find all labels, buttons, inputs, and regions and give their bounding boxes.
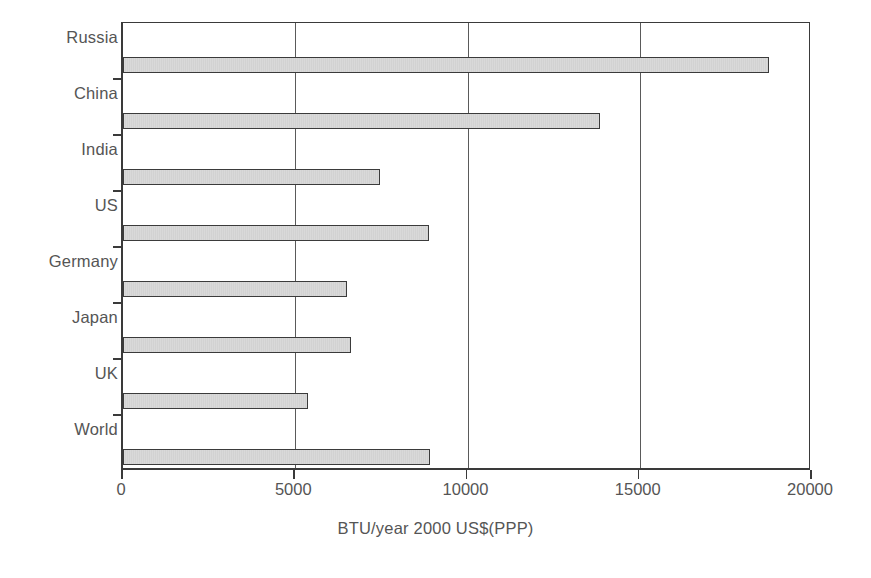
bar-band-russia <box>123 23 809 79</box>
bar-band-us <box>123 191 809 247</box>
bar-world[interactable] <box>123 449 430 465</box>
x-axis-label-0: 0 <box>116 480 125 499</box>
plot-area <box>121 22 810 470</box>
x-tick-5000 <box>293 470 295 479</box>
x-tick-20000 <box>810 470 812 479</box>
bar-band-germany <box>123 247 809 303</box>
bar-uk[interactable] <box>123 393 308 409</box>
x-axis-title: BTU/year 2000 US$(PPP) <box>0 519 871 538</box>
bar-band-uk <box>123 359 809 415</box>
x-tick-0 <box>121 470 123 479</box>
bar-russia[interactable] <box>123 57 769 73</box>
bar-band-china <box>123 79 809 135</box>
x-tick-10000 <box>466 470 468 479</box>
bar-band-japan <box>123 303 809 359</box>
x-axis-label-3: 15000 <box>615 480 661 499</box>
bar-chart: Russia China India US Germany Japan UK W… <box>0 0 871 578</box>
x-axis-label-1: 5000 <box>275 480 312 499</box>
bar-band-world <box>123 415 809 471</box>
bar-india[interactable] <box>123 169 380 185</box>
x-axis-labels: 0 5000 10000 15000 20000 <box>0 480 871 510</box>
bar-japan[interactable] <box>123 337 351 353</box>
x-axis-ticks <box>121 470 810 480</box>
bar-germany[interactable] <box>123 281 347 297</box>
x-axis-label-2: 10000 <box>443 480 489 499</box>
bar-us[interactable] <box>123 225 429 241</box>
x-axis-label-4: 20000 <box>787 480 833 499</box>
x-tick-15000 <box>638 470 640 479</box>
bar-band-india <box>123 135 809 191</box>
y-axis-ticks <box>0 22 122 470</box>
bar-china[interactable] <box>123 113 600 129</box>
